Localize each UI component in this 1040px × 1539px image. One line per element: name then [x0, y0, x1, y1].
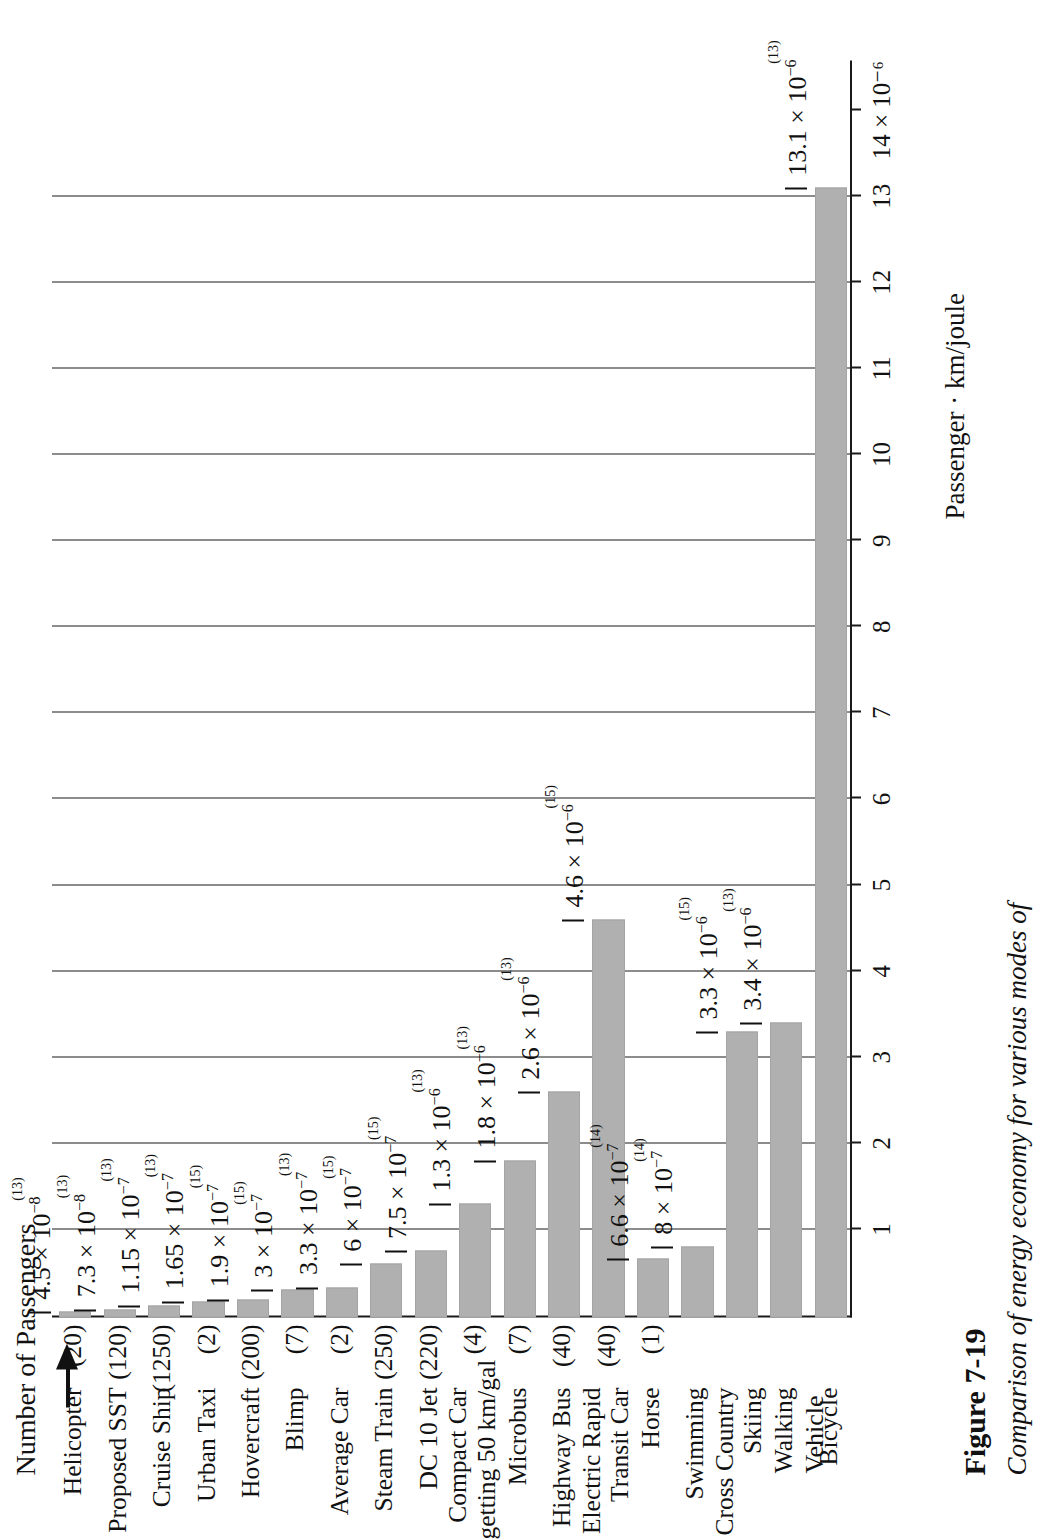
value-tick: [651, 1246, 673, 1248]
x-tick-label: 4: [868, 964, 896, 977]
value-tick: [785, 187, 807, 189]
reference-marker: (14): [589, 1124, 603, 1147]
bar-value-label: 1.65 × 10−7: [160, 1172, 188, 1288]
x-tick-label: 7: [868, 706, 896, 719]
bar: [770, 1022, 802, 1317]
gridline: [52, 625, 852, 626]
reference-marker: (15): [678, 897, 692, 920]
value-tick: [385, 1250, 407, 1252]
value-tick: [518, 1091, 540, 1093]
bar-value-label: 3.4 × 10−6: [738, 907, 766, 1010]
value-tick: [251, 1289, 273, 1291]
category-label: Bicycle: [815, 1387, 844, 1539]
reference-marker: (13): [500, 957, 514, 980]
axis-tick: [850, 1227, 861, 1229]
axis-tick: [850, 194, 861, 196]
value-tick: [740, 1022, 762, 1024]
reference-marker: (15): [544, 785, 558, 808]
axis-tick: [850, 883, 861, 885]
bar-value-label: 8 × 10−7: [649, 1150, 677, 1234]
reference-marker: (14): [633, 1138, 647, 1161]
category-label: Cross Country Skiing: [711, 1387, 768, 1539]
x-tick-label: 2: [868, 1137, 896, 1150]
gridline: [52, 195, 852, 196]
axis-tick: [850, 452, 861, 454]
passenger-count: (120): [105, 1324, 131, 1479]
bar-value-label: 4.5 × 10−8: [27, 1196, 55, 1299]
value-tick: [162, 1301, 184, 1303]
passenger-count: (4): [460, 1324, 486, 1479]
axis-tick: [850, 538, 861, 540]
reference-marker: (13): [278, 1152, 292, 1175]
passenger-count: (220): [416, 1324, 442, 1479]
reference-marker: (13): [144, 1153, 158, 1176]
bar: [59, 1311, 91, 1317]
passenger-count: (2): [194, 1324, 220, 1479]
passenger-count: (200): [238, 1324, 264, 1479]
passenger-count: (7): [282, 1324, 308, 1479]
passenger-count: (40): [594, 1324, 620, 1479]
bar: [415, 1250, 447, 1317]
axis-tick: [850, 366, 861, 368]
reference-marker: (13): [100, 1158, 114, 1181]
reference-marker: (13): [456, 1026, 470, 1049]
reference-marker: (15): [322, 1155, 336, 1178]
reference-marker: (15): [189, 1164, 203, 1187]
value-tick: [118, 1305, 140, 1307]
bar: [815, 187, 847, 1317]
bar-value-label: 1.15 × 10−7: [116, 1177, 144, 1293]
axis-tick: [850, 108, 861, 110]
passenger-count: (250): [371, 1324, 397, 1479]
bar: [548, 1091, 580, 1317]
x-tick-label: 12: [868, 269, 896, 294]
reference-marker: (13): [411, 1069, 425, 1092]
reference-marker: (13): [56, 1174, 70, 1197]
gridline: [52, 281, 852, 282]
bar: [459, 1203, 491, 1317]
bar-value-label: 3.3 × 10−7: [294, 1171, 322, 1274]
passenger-count: (2): [327, 1324, 353, 1479]
axis-tick: [850, 710, 861, 712]
passenger-count: (1): [638, 1324, 664, 1479]
axis-tick: [850, 1141, 861, 1143]
value-tick: [429, 1203, 451, 1205]
bar-value-label: 1.8 × 10−6: [472, 1045, 500, 1148]
bar-value-label: 3.3 × 10−6: [694, 916, 722, 1019]
x-tick-label: 8: [868, 620, 896, 633]
reference-marker: (15): [233, 1181, 247, 1204]
bar: [148, 1305, 180, 1317]
bar-value-label: 1.3 × 10−6: [427, 1088, 455, 1191]
bar: [681, 1246, 713, 1317]
bar: [592, 919, 624, 1317]
bar-value-label: 6.6 × 10−7: [605, 1143, 633, 1246]
passenger-count: (20): [60, 1324, 86, 1479]
bar-value-label: 3 × 10−7: [249, 1193, 277, 1277]
bar-value-label: 7.5 × 10−7: [383, 1135, 411, 1238]
value-tick: [29, 1311, 51, 1313]
bar: [237, 1299, 269, 1317]
axis-tick: [850, 796, 861, 798]
x-axis-title: Passenger · km/joule: [940, 293, 971, 519]
x-tick-label: 9: [868, 534, 896, 547]
gridline: [52, 367, 852, 368]
value-tick: [562, 919, 584, 921]
gridline: [52, 970, 852, 971]
bar: [104, 1309, 136, 1317]
reference-marker: (13): [722, 888, 736, 911]
value-tick: [296, 1287, 318, 1289]
reference-marker: (13): [11, 1177, 25, 1200]
value-tick: [607, 1258, 629, 1260]
gridline: [52, 797, 852, 798]
bar: [192, 1301, 224, 1317]
x-tick-label: 13: [868, 183, 896, 208]
bar: [504, 1160, 536, 1317]
bar-value-label: 1.9 × 10−7: [205, 1183, 233, 1286]
x-tick-label: 5: [868, 878, 896, 891]
figure-number: Figure 7-19: [958, 1328, 992, 1475]
x-tick-label: 10: [868, 442, 896, 467]
value-tick: [340, 1263, 362, 1265]
x-tick-label: 3: [868, 1050, 896, 1063]
gridline: [52, 453, 852, 454]
value-tick: [74, 1309, 96, 1311]
